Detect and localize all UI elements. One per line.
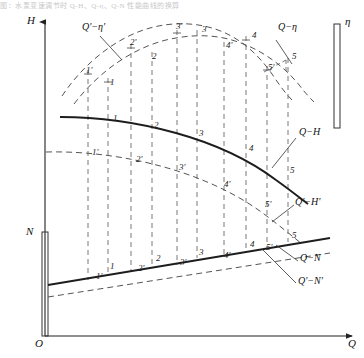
point-label-power-bottom-0: 1 — [110, 262, 115, 271]
point-label-power-bottom-6: 2' — [138, 264, 144, 273]
point-label-eta-top-8: 5' — [268, 63, 274, 72]
flow-axis-label: Q — [348, 338, 356, 349]
origin-label: O — [35, 338, 43, 349]
point-label-eta-top-3: 2 — [152, 52, 157, 61]
point-label-head-mid-3: 4 — [249, 144, 254, 153]
pump-performance-diagram — [0, 0, 364, 358]
power-converted-label: Q'−N' — [298, 276, 323, 286]
point-label-power-bottom-4: 5 — [292, 231, 297, 240]
point-label-eta-top-1: 1 — [110, 78, 115, 87]
point-label-head-mid-9: 5' — [265, 200, 271, 209]
leader-power-original — [276, 245, 298, 261]
point-label-eta-top-2: 2' — [130, 38, 136, 47]
point-label-eta-top-7: 4 — [252, 31, 257, 40]
head-original-label: Q−H — [299, 127, 320, 137]
leader-eta-original — [276, 40, 292, 64]
efficiency-axis-label: η — [345, 16, 350, 27]
power-axis-label: N — [26, 226, 33, 237]
point-label-head-mid-5: 1' — [92, 148, 98, 157]
power-original-curve — [48, 238, 330, 285]
point-label-power-bottom-9: 5' — [266, 243, 272, 252]
point-label-power-bottom-8: 4' — [224, 251, 230, 260]
point-label-head-mid-4: 5 — [290, 166, 295, 175]
leader-head-original — [272, 138, 296, 168]
point-label-power-bottom-3: 4 — [250, 240, 255, 249]
efficiency-curves-group — [62, 24, 314, 104]
head-converted-curve — [46, 152, 302, 244]
eta-original-curve — [74, 36, 314, 104]
point-label-eta-top-6: 4' — [226, 41, 232, 50]
eta-original-label: Q−η — [278, 22, 297, 32]
power-curves-group — [48, 238, 330, 297]
point-label-head-mid-6: 2' — [136, 155, 142, 164]
point-label-power-bottom-7: 3' — [180, 258, 186, 267]
point-label-head-mid-0: 1 — [113, 114, 118, 123]
point-label-head-mid-7: 3' — [179, 163, 185, 172]
point-label-power-bottom-5: 1' — [96, 272, 102, 281]
point-label-eta-top-9: 5 — [292, 52, 297, 61]
point-label-eta-top-5: 3 — [202, 25, 207, 34]
leader-head-converted — [272, 205, 294, 222]
leader-eta-converted — [100, 36, 122, 60]
head-original-curve — [60, 117, 308, 204]
point-label-eta-top-0: 1' — [86, 66, 92, 75]
point-label-eta-top-4: 3' — [176, 22, 182, 31]
head-curves-group — [46, 117, 308, 244]
head-converted-label: Q'−H' — [295, 197, 320, 207]
leader-power-converted — [262, 249, 296, 283]
point-label-power-bottom-1: 2 — [156, 254, 161, 263]
point-label-head-mid-8: 4' — [224, 180, 230, 189]
efficiency-axis-bar — [334, 24, 340, 128]
projection-lines-group — [88, 30, 288, 280]
head-axis-label: H — [27, 15, 35, 26]
eta-converted-label: Q'−η' — [82, 22, 105, 32]
point-label-head-mid-2: 3 — [199, 129, 204, 138]
power-original-label: Q−N — [300, 253, 321, 263]
point-label-head-mid-1: 2 — [154, 121, 159, 130]
point-label-power-bottom-2: 3 — [199, 248, 204, 257]
figure-canvas: 图：水泵变速调节时 Q-H、Q-η、Q-N 性能曲线的换算 — [0, 0, 364, 358]
